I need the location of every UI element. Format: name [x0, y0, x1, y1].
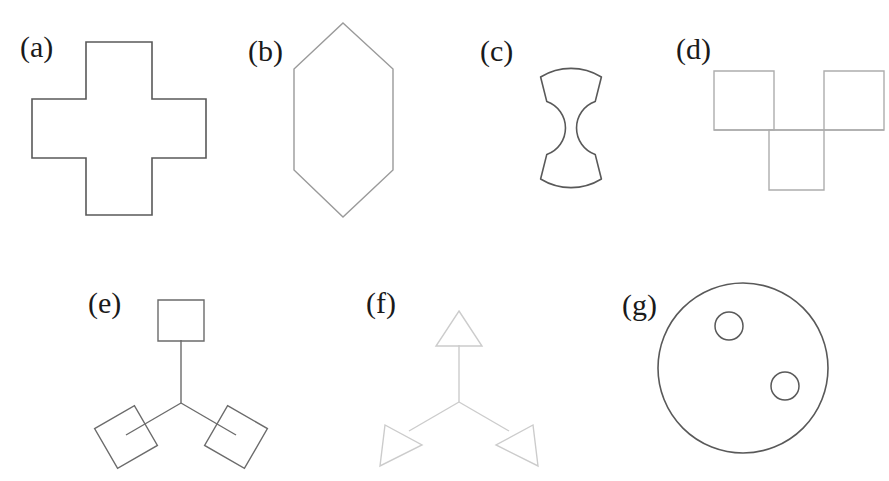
outer-circle — [658, 283, 828, 453]
holed-circle-shape — [0, 0, 889, 481]
figure-canvas: (a) (b) (c) (d) (e) — [0, 0, 889, 481]
inner-circle-upper — [715, 312, 743, 340]
inner-circle-lower — [771, 372, 799, 400]
